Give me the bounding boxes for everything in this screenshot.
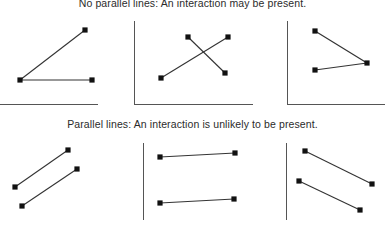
data-point [232,150,237,155]
line-upper [15,150,68,187]
line-upper [20,30,85,80]
data-point [89,77,94,82]
line-rising [315,63,367,70]
line-lower [299,181,360,210]
data-point [12,184,17,189]
data-point [65,147,70,152]
data-point [82,27,87,32]
line-lower [160,199,234,203]
data-point [19,203,24,208]
data-point [74,166,79,171]
data-point [312,67,317,72]
line-upper [305,151,372,184]
figure-canvas: No parallel lines: An interaction may be… [0,0,385,225]
data-point [369,181,374,186]
data-point [296,178,301,183]
data-point [225,34,230,39]
data-point [357,207,362,212]
panel-6-parallel-falling [282,140,385,222]
panel-2-crossing [130,18,258,113]
data-point [158,75,163,80]
caption-parallel-lines: Parallel lines: An interaction is unlike… [0,118,385,130]
data-point [157,154,162,159]
data-point [231,196,236,201]
line-falling [315,31,367,63]
data-point [312,28,317,33]
caption-no-parallel-lines: No parallel lines: An interaction may be… [0,0,385,9]
data-point [17,77,22,82]
line-lower [22,169,77,206]
data-point [364,60,369,65]
data-point [185,34,190,39]
panel-3-converging [283,18,385,113]
data-point [222,70,227,75]
panel-1-diverging [0,18,110,113]
data-point [157,200,162,205]
panel-5-parallel-flat [139,140,249,222]
data-point [302,148,307,153]
panel-4-parallel-rising [0,140,110,222]
line-upper [160,153,235,157]
